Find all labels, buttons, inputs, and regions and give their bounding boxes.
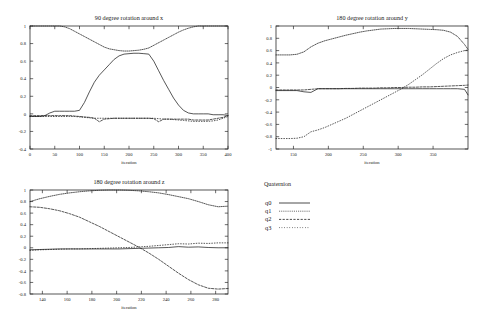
series-q1 bbox=[276, 28, 468, 54]
x-tick-label: 240 bbox=[163, 297, 171, 302]
y-tick-label: 0 bbox=[270, 85, 273, 90]
y-tick-label: 0.6 bbox=[266, 48, 272, 53]
series-q3 bbox=[276, 50, 468, 139]
x-axis-label: iteration bbox=[364, 160, 380, 165]
legend-label-q2: q2 bbox=[265, 215, 271, 222]
chart-svg-rotation-y: 180 degree rotation around y-1-0.8-0.6-0… bbox=[248, 2, 484, 170]
y-tick-label: -0.6 bbox=[265, 122, 273, 127]
x-tick-label: 160 bbox=[64, 297, 72, 302]
series-q2 bbox=[30, 116, 228, 122]
x-tick-label: 350 bbox=[200, 152, 208, 157]
y-tick-label: 0.4 bbox=[20, 222, 26, 227]
y-tick-label: 1 bbox=[24, 24, 27, 29]
legend-label-q0: q0 bbox=[265, 199, 271, 206]
x-tick-label: 200 bbox=[113, 297, 121, 302]
y-tick-label: 0.8 bbox=[20, 199, 26, 204]
x-tick-label: 300 bbox=[175, 152, 183, 157]
chart-panel-rotation-z: 180 degree rotation around z-0.8-0.6-0.4… bbox=[0, 172, 244, 335]
y-tick-label: 0 bbox=[24, 245, 27, 250]
y-tick-label: 0.4 bbox=[266, 61, 272, 66]
series-q2 bbox=[30, 207, 228, 289]
x-tick-label: 150 bbox=[290, 152, 298, 157]
y-tick-label: -1 bbox=[268, 147, 273, 152]
series-q1 bbox=[30, 26, 228, 51]
y-tick-label: -0.8 bbox=[265, 134, 273, 139]
x-tick-label: 220 bbox=[138, 297, 146, 302]
y-tick-label: 0.2 bbox=[20, 94, 26, 99]
chart-title: 90 degree rotation around x bbox=[95, 14, 164, 21]
y-tick-label: 1 bbox=[270, 24, 273, 29]
chart-svg-rotation-z: 180 degree rotation around z-0.8-0.6-0.4… bbox=[0, 172, 244, 335]
y-tick-label: -0.2 bbox=[19, 129, 27, 134]
y-tick-label: -0.2 bbox=[19, 257, 27, 262]
y-tick-label: 0.8 bbox=[266, 36, 272, 41]
y-tick-label: 0.6 bbox=[20, 59, 26, 64]
x-tick-label: 280 bbox=[212, 297, 220, 302]
chart-title: 180 degree rotation around z bbox=[93, 178, 164, 185]
x-tick-label: 50 bbox=[52, 152, 57, 157]
legend-title: Quaternion bbox=[264, 181, 291, 187]
x-tick-label: 250 bbox=[150, 152, 158, 157]
chart-title: 180 degree rotation around y bbox=[336, 14, 408, 21]
legend-label-q3: q3 bbox=[265, 224, 271, 231]
legend-svg: Quaternionq0q1q2q3 bbox=[262, 176, 452, 256]
x-axis-label: iteration bbox=[121, 305, 137, 310]
series-q2 bbox=[276, 85, 468, 90]
x-tick-label: 200 bbox=[325, 152, 333, 157]
y-tick-label: 0.2 bbox=[20, 234, 26, 239]
quaternion-figure: 90 degree rotation around x-0.4-0.200.20… bbox=[0, 0, 484, 335]
x-tick-label: 180 bbox=[88, 297, 96, 302]
x-tick-label: 300 bbox=[395, 152, 403, 157]
y-tick-label: 1 bbox=[24, 188, 27, 193]
series-q0 bbox=[30, 53, 228, 116]
y-tick-label: -0.4 bbox=[265, 110, 273, 115]
x-tick-label: 260 bbox=[187, 297, 195, 302]
y-tick-label: -0.6 bbox=[19, 280, 27, 285]
x-tick-label: 350 bbox=[430, 152, 438, 157]
series-q0 bbox=[30, 247, 228, 250]
y-tick-label: -0.8 bbox=[19, 292, 27, 297]
series-q3 bbox=[30, 116, 228, 121]
series-q1 bbox=[30, 190, 228, 207]
legend-label-q1: q1 bbox=[265, 207, 271, 214]
y-tick-label: 0.2 bbox=[266, 73, 272, 78]
chart-panel-rotation-y: 180 degree rotation around y-1-0.8-0.6-0… bbox=[248, 2, 484, 170]
x-tick-label: 0 bbox=[29, 152, 32, 157]
x-tick-label: 140 bbox=[39, 297, 47, 302]
x-axis-label: iteration bbox=[121, 160, 137, 165]
chart-panel-rotation-x: 90 degree rotation around x-0.4-0.200.20… bbox=[0, 2, 244, 170]
legend-block: Quaternionq0q1q2q3 bbox=[262, 176, 452, 256]
plot-frame bbox=[30, 26, 228, 149]
x-tick-label: 150 bbox=[101, 152, 109, 157]
y-tick-label: 0 bbox=[24, 112, 27, 117]
y-tick-label: -0.4 bbox=[19, 147, 27, 152]
x-tick-label: 100 bbox=[76, 152, 84, 157]
y-tick-label: 0.4 bbox=[20, 76, 26, 81]
x-tick-label: 250 bbox=[360, 152, 368, 157]
plot-frame bbox=[276, 26, 468, 149]
x-tick-label: 400 bbox=[225, 152, 233, 157]
y-tick-label: 0.6 bbox=[20, 211, 26, 216]
x-tick-label: 200 bbox=[126, 152, 134, 157]
y-tick-label: -0.2 bbox=[265, 98, 273, 103]
y-tick-label: 0.8 bbox=[20, 41, 26, 46]
y-tick-label: -0.4 bbox=[19, 269, 27, 274]
chart-svg-rotation-x: 90 degree rotation around x-0.4-0.200.20… bbox=[0, 2, 244, 170]
